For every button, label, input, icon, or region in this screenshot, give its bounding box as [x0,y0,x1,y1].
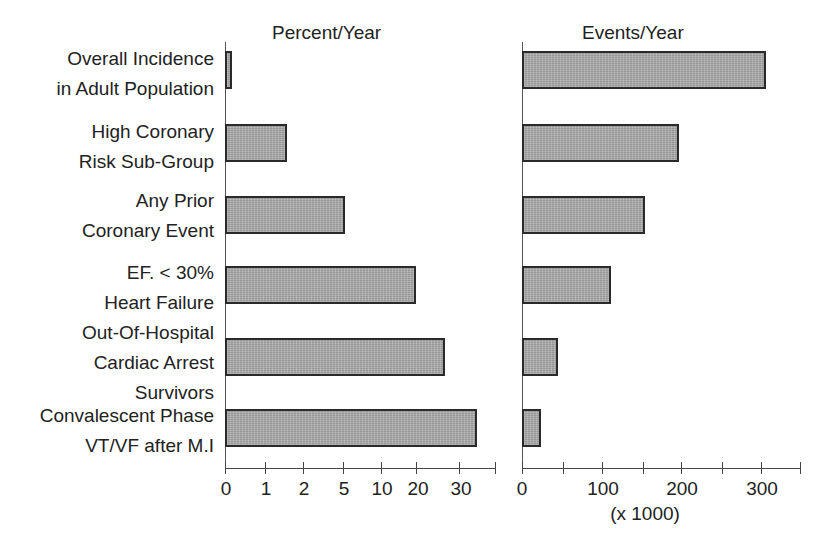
category-label-overall-incidence: Overall Incidence in Adult Population [57,44,214,104]
bar-percent-overall-incidence [225,51,232,89]
bar-percent-cardiac-arrest-survivors [225,338,445,376]
tick [303,462,304,474]
bar-percent-high-coronary-risk [225,124,287,162]
category-label-heart-failure: EF. < 30% Heart Failure [104,258,214,318]
left-y-axis [225,42,226,472]
tick [563,462,564,474]
bar-events-cardiac-arrest-survivors [522,338,558,376]
tick [343,462,344,474]
bar-percent-heart-failure [225,266,416,304]
tick [522,462,523,474]
tick [761,462,762,474]
bar-events-overall-incidence [522,51,766,89]
bar-events-heart-failure [522,266,611,304]
tick-label: 200 [666,478,698,500]
x-axis-unit-label: (x 1000) [610,503,680,525]
tick-label: 2 [299,478,310,500]
tick-label: 10 [371,478,392,500]
tick-label: 0 [221,478,232,500]
bar-percent-prior-coronary-event [225,196,345,234]
tick-label: 5 [339,478,350,500]
tick [459,462,460,474]
left-panel-title: Percent/Year [272,22,381,44]
bar-events-vt-vf-after-mi [522,409,541,447]
tick [381,462,382,474]
bar-percent-vt-vf-after-mi [225,409,477,447]
tick [800,462,801,474]
right-y-axis [522,42,523,472]
bar-events-prior-coronary-event [522,196,645,234]
right-panel-title: Events/Year [582,22,684,44]
tick-label: 100 [587,478,619,500]
tick-label: 20 [407,478,428,500]
tick [416,462,417,474]
tick [495,462,496,474]
tick [643,462,644,474]
tick-label: 1 [261,478,272,500]
category-label-high-coronary-risk: High Coronary Risk Sub-Group [79,117,214,177]
tick [681,462,682,474]
tick [602,462,603,474]
tick-label: 30 [450,478,471,500]
bar-events-high-coronary-risk [522,124,679,162]
category-label-cardiac-arrest-survivors: Out-Of-Hospital Cardiac Arrest Survivors [82,318,214,408]
tick [225,462,226,474]
tick-label: 300 [746,478,778,500]
tick-label: 0 [517,478,528,500]
tick [265,462,266,474]
category-label-prior-coronary-event: Any Prior Coronary Event [82,186,214,246]
tick [722,462,723,474]
category-label-vt-vf-after-mi: Convalescent Phase VT/VF after M.I [40,401,214,461]
